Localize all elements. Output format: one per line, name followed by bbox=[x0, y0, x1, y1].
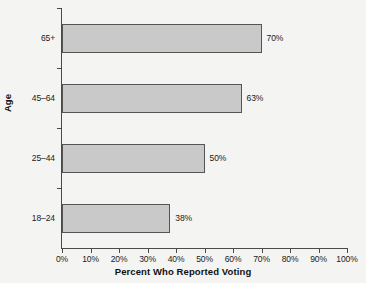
bar bbox=[62, 84, 242, 113]
x-axis-tick bbox=[148, 249, 149, 253]
y-axis-tick bbox=[57, 128, 62, 129]
x-axis-tick bbox=[262, 249, 263, 253]
y-axis-tick bbox=[57, 8, 62, 9]
x-axis-tick bbox=[91, 249, 92, 253]
bar-value-label: 38% bbox=[175, 213, 192, 223]
bar-chart: 0%10%20%30%40%50%60%70%80%90%100% 65+45–… bbox=[0, 0, 366, 283]
y-axis-tick-label: 65+ bbox=[41, 33, 55, 43]
bar bbox=[62, 24, 262, 53]
x-axis-tick bbox=[319, 249, 320, 253]
x-axis-tick bbox=[119, 249, 120, 253]
bar bbox=[62, 204, 170, 233]
y-axis-title: Age bbox=[2, 94, 13, 112]
x-axis-tick bbox=[62, 249, 63, 253]
bar-value-label: 63% bbox=[247, 93, 264, 103]
x-axis-tick-label: 100% bbox=[327, 254, 366, 264]
y-axis-tick-label: 45–64 bbox=[32, 93, 55, 103]
y-axis-tick-label: 18–24 bbox=[32, 213, 55, 223]
y-axis-tick bbox=[57, 68, 62, 69]
x-axis-tick bbox=[290, 249, 291, 253]
y-axis-tick-label: 25–44 bbox=[32, 153, 55, 163]
x-axis-title: Percent Who Reported Voting bbox=[0, 266, 366, 277]
x-axis-tick bbox=[347, 249, 348, 253]
bar bbox=[62, 144, 205, 173]
bar-value-label: 70% bbox=[267, 33, 284, 43]
x-axis-tick bbox=[176, 249, 177, 253]
bar-value-label: 50% bbox=[210, 153, 227, 163]
x-axis-tick bbox=[233, 249, 234, 253]
y-axis-tick bbox=[57, 188, 62, 189]
x-axis-tick bbox=[205, 249, 206, 253]
